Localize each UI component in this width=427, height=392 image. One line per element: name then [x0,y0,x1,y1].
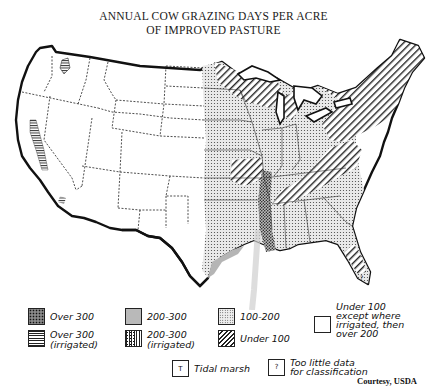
legend-item-100-200: 100-200 [218,308,280,325]
lake-superior [238,66,280,82]
legend-item-over-300: Over 300 [28,308,94,325]
tidal-marsh-box-icon: T [172,360,189,377]
legend-label: Over 300 (irrigated) [50,330,98,349]
legend-item-too-little-data: ? Too little data for classification [268,358,368,376]
legend-item-under-100-except-irrigated: Under 100 except where irrigated, then o… [314,310,404,338]
florida-no-data-marker: ? [360,274,363,281]
zone-under100-northeast [318,40,424,142]
title-line-1: ANNUAL COW GRAZING DAYS PER ACRE [0,9,427,23]
horizontal-lines-swatch-icon [28,330,45,347]
legend-label: Under 100 except where irrigated, then o… [336,302,404,338]
legend-label: Too little data for classification [290,358,368,376]
cross-hatch-swatch-icon [28,308,45,325]
legend-label: 200-300 [147,308,187,325]
us-grazing-map: ? [0,30,427,310]
blank-swatch-icon [314,316,331,333]
credit-line: Courtesy, USDA [357,376,417,386]
legend-label: 200-300 (irrigated) [147,330,195,349]
legend-item-200-300: 200-300 [125,308,187,325]
legend-label: Under 100 [240,330,290,347]
legend-label: Tidal marsh [194,364,250,374]
dot-stipple-swatch-icon [218,308,235,325]
solid-gray-swatch-icon [125,308,142,325]
legend-item-under-100: Under 100 [218,330,290,347]
legend-item-over-300-irrigated: Over 300 (irrigated) [28,330,98,349]
legend-label: Over 300 [50,308,94,325]
question-box-icon: ? [268,359,285,376]
legend-item-200-300-irrigated: 200-300 (irrigated) [125,330,195,349]
legend-label: 100-200 [240,308,280,325]
legend-item-tidal-marsh: T Tidal marsh [172,360,250,377]
diagonal-hatch-swatch-icon [218,330,235,347]
vertical-lines-swatch-icon [125,330,142,347]
scan-smudge [252,230,258,310]
